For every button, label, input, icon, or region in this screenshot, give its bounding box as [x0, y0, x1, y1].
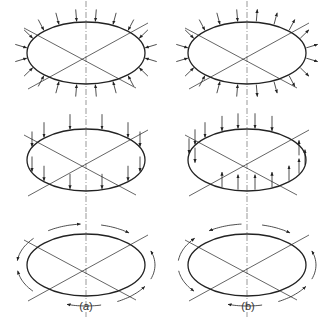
load-arrow-icon [300, 68, 309, 76]
load-arrow-icon [139, 68, 148, 76]
load-arrow-icon [113, 82, 116, 94]
tangential-load-arrow-icon [312, 251, 316, 279]
tangential-load-arrow-icon [262, 225, 290, 233]
tangential-load-arrow-icon [48, 224, 80, 231]
load-arrow-icon [24, 30, 33, 38]
load-arrow-icon [56, 82, 59, 94]
tangential-load-arrow-icon [101, 225, 129, 233]
load-arrow-icon [113, 13, 116, 25]
load-arrow-icon [289, 76, 295, 87]
load-arrow-icon [237, 9, 238, 21]
tangential-load-arrow-icon [278, 286, 306, 301]
load-arrow-icon [185, 68, 194, 76]
tangential-load-arrow-icon [209, 224, 241, 231]
load-arrow-icon [24, 68, 33, 76]
load-arrow-icon [256, 9, 257, 21]
load-arrow-icon [185, 30, 194, 38]
load-arrow-icon [76, 85, 77, 97]
load-arrow-icon [274, 82, 277, 94]
load-arrow-icon [95, 9, 96, 21]
load-arrow-icon [237, 85, 238, 97]
load-arrow-icon [15, 58, 26, 61]
load-arrow-icon [176, 44, 187, 47]
load-arrow-icon [145, 44, 156, 47]
load-arrow-icon [38, 20, 44, 31]
label-b: (b) [241, 300, 254, 312]
load-arrow-icon [145, 58, 156, 61]
load-arrow-icon [15, 44, 26, 47]
tangential-load-arrow-icon [117, 286, 145, 301]
load-arrow-icon [128, 20, 134, 31]
label-a: (a) [79, 300, 92, 312]
tangential-load-arrow-icon [179, 271, 194, 291]
load-arrow-icon [306, 58, 317, 61]
load-arrow-icon [139, 30, 148, 38]
load-arrow-icon [217, 13, 220, 25]
loading-diagram [0, 0, 331, 326]
load-arrow-icon [256, 85, 257, 97]
load-arrow-icon [274, 13, 277, 25]
tangential-load-arrow-icon [178, 238, 194, 260]
load-arrow-icon [128, 76, 134, 87]
load-arrow-icon [176, 58, 187, 61]
tangential-load-arrow-icon [18, 271, 33, 291]
load-arrow-icon [300, 30, 309, 38]
load-arrow-icon [95, 85, 96, 97]
tangential-load-arrow-icon [17, 238, 33, 260]
load-arrow-icon [289, 20, 295, 31]
tangential-load-arrow-icon [151, 251, 155, 279]
load-arrow-icon [56, 13, 59, 25]
load-arrow-icon [217, 82, 220, 94]
load-arrow-icon [199, 20, 205, 31]
load-arrow-icon [76, 9, 77, 21]
load-arrow-icon [306, 44, 317, 47]
